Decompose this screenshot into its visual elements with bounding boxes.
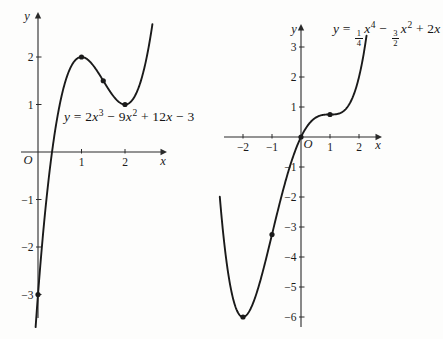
data-point bbox=[122, 102, 127, 107]
function-curve bbox=[36, 24, 153, 327]
equation-text: = 2 bbox=[70, 109, 92, 124]
y-axis-arrow bbox=[298, 24, 304, 31]
data-point bbox=[35, 292, 40, 297]
equation-text: − 3 bbox=[172, 109, 194, 124]
y-tick-label: −1 bbox=[21, 194, 33, 206]
y-tick-label: −3 bbox=[284, 221, 296, 233]
equation-label-left: y = 2x3 − 9x2 + 12x − 3 bbox=[64, 108, 194, 125]
x-tick-label: −2 bbox=[237, 141, 249, 153]
equation-variable: x bbox=[434, 21, 440, 36]
x-tick-label: 2 bbox=[356, 141, 362, 153]
origin-label: O bbox=[23, 153, 32, 167]
graph-left-cubic: 1221−1−2−3xyO bbox=[21, 9, 167, 327]
two-function-graphs-figure: 1221−1−2−3xyO −2−112321−1−2−3−4−5−6xyO y… bbox=[0, 0, 443, 339]
data-point bbox=[240, 314, 245, 319]
y-tick-label: 1 bbox=[291, 101, 297, 113]
equation-text: − bbox=[376, 21, 391, 36]
equation-variable: x bbox=[401, 21, 407, 36]
y-axis-arrow bbox=[35, 12, 41, 19]
equation-text: + 12 bbox=[137, 109, 166, 124]
y-tick-label: 2 bbox=[291, 71, 297, 83]
equation-text: − 9 bbox=[104, 109, 126, 124]
fraction: 14 bbox=[355, 29, 362, 50]
equation-text: + 2 bbox=[412, 21, 434, 36]
x-axis-label: x bbox=[159, 154, 166, 168]
x-tick-label: −1 bbox=[266, 141, 278, 153]
x-tick-label: 1 bbox=[327, 141, 333, 153]
y-tick-label: −3 bbox=[21, 289, 33, 301]
x-tick-label: 1 bbox=[79, 156, 85, 168]
equation-label-right: y = 14x4 − 32x2 + 2x bbox=[333, 20, 440, 49]
origin-label: O bbox=[303, 137, 312, 151]
plots-svg: 1221−1−2−3xyO −2−112321−1−2−3−4−5−6xyO bbox=[0, 0, 443, 339]
y-tick-label: −4 bbox=[284, 251, 296, 263]
equation-variable: x bbox=[126, 109, 132, 124]
graph-right-quartic: −2−112321−1−2−3−4−5−6xyO bbox=[220, 22, 382, 327]
y-tick-label: −2 bbox=[21, 241, 33, 253]
y-tick-label: 1 bbox=[28, 99, 34, 111]
equation-variable: x bbox=[92, 109, 98, 124]
data-point bbox=[101, 78, 106, 83]
y-axis-label: y bbox=[22, 9, 30, 23]
equation-variable: x bbox=[364, 21, 370, 36]
data-point bbox=[79, 54, 84, 59]
x-axis-label: x bbox=[374, 138, 381, 152]
fraction: 32 bbox=[392, 29, 399, 50]
y-tick-label: 2 bbox=[28, 51, 34, 63]
x-tick-label: 2 bbox=[122, 156, 128, 168]
y-tick-label: −5 bbox=[284, 281, 296, 293]
data-point bbox=[327, 112, 332, 117]
y-tick-label: −6 bbox=[284, 311, 296, 323]
equation-text: = bbox=[339, 21, 354, 36]
data-point bbox=[269, 232, 274, 237]
y-tick-label: 3 bbox=[291, 41, 297, 53]
y-tick-label: −2 bbox=[284, 191, 296, 203]
y-axis-label: y bbox=[289, 22, 297, 36]
